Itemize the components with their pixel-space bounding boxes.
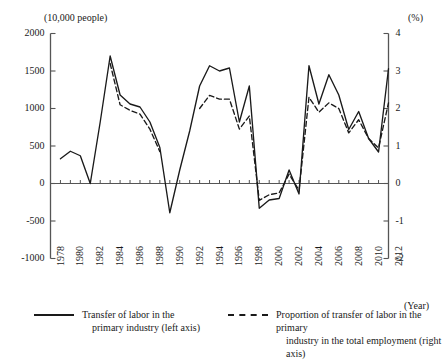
legend-item-proportion: Proportion of transfer of labor in the p…	[228, 308, 447, 360]
x-axis-tick-label: 2000	[273, 246, 284, 266]
x-axis-tick-label: 1996	[233, 246, 244, 266]
series-line-2	[110, 64, 388, 201]
x-axis-tick-label: 1984	[114, 246, 125, 266]
axes-group	[51, 34, 389, 259]
right-axis-tick-label: 1	[396, 140, 436, 151]
x-axis-tick-label: 1978	[55, 246, 66, 266]
series-group	[60, 56, 388, 213]
legend-label-proportion-line2: industry in the total employment (right …	[276, 334, 447, 360]
x-axis-tick-label: 2010	[373, 246, 384, 266]
right-axis-tick-label: 3	[396, 65, 436, 76]
left-axis-tick-label: 0	[5, 177, 45, 188]
right-axis-tick-label: -1	[396, 215, 436, 226]
x-axis-tick-label: 1988	[154, 246, 165, 266]
right-axis-unit-label: (%)	[408, 12, 423, 23]
left-axis-tick-label: -500	[5, 215, 45, 226]
left-axis-tick-label: 2000	[5, 27, 45, 38]
x-axis-tick-label: 1994	[214, 246, 225, 266]
x-axis-tick-label: 1990	[174, 246, 185, 266]
left-axis-tick-label: -1000	[5, 252, 45, 263]
right-axis-tick-label: 2	[396, 102, 436, 113]
series-line-1	[60, 56, 388, 213]
x-axis-tick-label: 2008	[353, 246, 364, 266]
left-axis-unit-label: (10,000 people)	[44, 12, 107, 23]
legend-label-transfer-line2: primary industry (left axis)	[82, 321, 244, 334]
legend-label-transfer-line1: Transfer of labor in the	[82, 309, 174, 320]
x-axis-tick-label: 1980	[74, 246, 85, 266]
x-axis-tick-label: 1998	[253, 246, 264, 266]
legend-item-transfer: Transfer of labor in the primary industr…	[34, 308, 244, 334]
x-axis-tick-label: 1992	[194, 246, 205, 266]
legend-label-proportion-line1: Proportion of transfer of labor in the p…	[276, 309, 422, 333]
left-axis-tick-label: 500	[5, 140, 45, 151]
right-axis-tick-label: 0	[396, 177, 436, 188]
left-axis-tick-label: 1000	[5, 102, 45, 113]
x-axis-tick-label: 2004	[313, 246, 324, 266]
x-axis-tick-label: 2006	[333, 246, 344, 266]
chart-legend: Transfer of labor in the primary industr…	[0, 306, 447, 346]
legend-label-proportion: Proportion of transfer of labor in the p…	[276, 308, 447, 360]
legend-swatch-dashed-line	[228, 314, 268, 316]
legend-label-transfer: Transfer of labor in the primary industr…	[82, 308, 244, 334]
x-axis-tick-label: 2012	[393, 246, 404, 266]
x-axis-tick-label: 2002	[293, 246, 304, 266]
right-axis-tick-label: 4	[396, 27, 436, 38]
left-axis-tick-label: 1500	[5, 65, 45, 76]
x-axis-tick-label: 1986	[134, 246, 145, 266]
legend-swatch-solid-line	[34, 314, 74, 316]
x-axis-tick-label: 1982	[94, 246, 105, 266]
